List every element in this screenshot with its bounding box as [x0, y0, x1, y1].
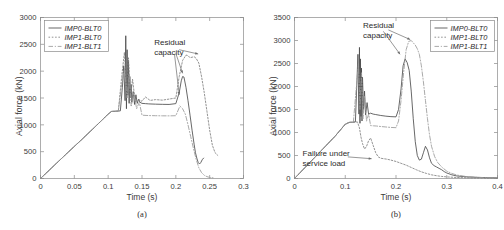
annotation-arrowhead — [369, 157, 372, 160]
y-tick-label: 2500 — [274, 59, 291, 68]
x-tick-label: 0.3 — [441, 182, 452, 191]
legend-label-imp1-blt1: IMP1-BLT1 — [451, 42, 488, 51]
y-tick-label: 3000 — [274, 36, 291, 45]
panel-b-y-axis-label: Axial force (kN) — [268, 76, 278, 136]
legend-label-imp0-blt0: IMP0-BLT0 — [65, 24, 103, 33]
y-tick-label: 0 — [32, 174, 36, 183]
x-tick-label: 0.25 — [202, 182, 217, 191]
x-tick-label: 0.1 — [103, 182, 114, 191]
x-tick-label: 0 — [38, 182, 42, 191]
annotation-text: Failure under — [303, 149, 350, 158]
legend-label-imp1-blt0: IMP1-BLT0 — [65, 33, 103, 42]
y-tick-label: 500 — [24, 147, 37, 156]
y-tick-label: 0 — [286, 174, 290, 183]
legend-label-imp1-blt1: IMP1-BLT1 — [65, 42, 102, 51]
x-tick-label: 0.4 — [492, 182, 503, 191]
annotation-arrow — [348, 157, 372, 159]
y-tick-label: 500 — [278, 151, 291, 160]
legend-label-imp1-blt0: IMP1-BLT0 — [451, 33, 489, 42]
panel-b: 00.10.20.30.4050010001500200025003000350… — [252, 0, 504, 230]
x-tick-label: 0.1 — [340, 182, 351, 191]
series-line-imp1-blt0 — [41, 52, 218, 178]
x-tick-label: 0.3 — [238, 182, 249, 191]
x-tick-label: 0.2 — [391, 182, 402, 191]
x-tick-label: 0 — [292, 182, 296, 191]
legend-label-imp0-blt0: IMP0-BLT0 — [451, 24, 489, 33]
panel-a-y-axis-label: Axial force (kN) — [14, 76, 24, 136]
figure-container: 00.050.10.150.20.250.3050010001500200025… — [0, 0, 504, 230]
annotation-text: service load — [303, 159, 346, 168]
y-tick-label: 2000 — [20, 67, 37, 76]
panel-b-caption: (b) — [376, 209, 416, 219]
panel-b-x-axis-label: Time (s) — [356, 192, 436, 202]
annotation-text: capacity — [154, 48, 183, 57]
panel-a-caption: (a) — [122, 209, 162, 219]
annotation-text: Residual — [363, 21, 394, 30]
x-tick-label: 0.15 — [135, 182, 150, 191]
annotation-arrow — [174, 54, 179, 95]
annotation-text: Residual — [154, 38, 185, 47]
panel-a: 00.050.10.150.20.250.3050010001500200025… — [0, 0, 252, 230]
y-tick-label: 2500 — [20, 40, 37, 49]
y-tick-label: 3500 — [274, 13, 291, 22]
x-tick-label: 0.2 — [171, 182, 182, 191]
panel-a-x-axis-label: Time (s) — [102, 192, 182, 202]
y-tick-label: 3000 — [20, 13, 37, 22]
x-tick-label: 0.05 — [67, 182, 82, 191]
